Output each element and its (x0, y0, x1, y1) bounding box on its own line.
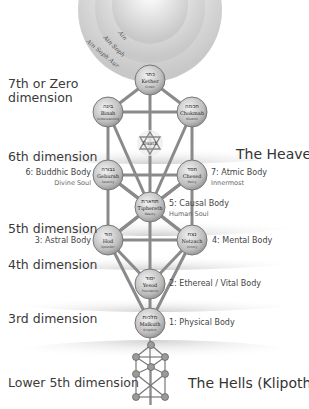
svg-text:תפארת: תפארת (141, 198, 159, 204)
body-label-physical: 1: Physical Body (169, 318, 235, 328)
svg-text:גבורה: גבורה (101, 166, 115, 172)
body-label-causal: 5: Causal Body Human Soul (169, 199, 229, 219)
svg-text:Crown: Crown (145, 85, 155, 89)
svg-text:Chesed: Chesed (183, 173, 203, 179)
body-label-mental: 4: Mental Body (212, 236, 272, 246)
dimension-label-5th: 5th dimension (8, 222, 98, 236)
svg-text:Netzach: Netzach (182, 238, 204, 244)
region-label-heavens: The Heavens (236, 146, 309, 162)
svg-text:Victory: Victory (187, 245, 198, 249)
dimension-label-7th: 7th or Zero dimension (8, 77, 78, 105)
svg-text:חכמה: חכמה (185, 103, 199, 109)
node-netzach: נצח Netzach Victory (177, 225, 207, 255)
body-label-buddhic: 6: Buddhic Body Divine Soul (26, 168, 91, 188)
dimension-label-4th: 4th dimension (8, 258, 98, 272)
node-geburah: גבורה Geburah Severity (93, 160, 123, 190)
node-binah: בינה Binah Understanding (93, 97, 123, 127)
node-chokmah: חכמה Chokmah Wisdom (177, 97, 207, 127)
svg-text:Binah: Binah (101, 110, 116, 116)
svg-text:Malkuth: Malkuth (139, 321, 161, 327)
svg-text:Beauty: Beauty (145, 212, 156, 216)
dimension-label-lower-5th: Lower 5th dimension (8, 376, 139, 390)
svg-text:Kether: Kether (141, 78, 159, 84)
region-label-hells: The Hells (Klipoth) (188, 375, 309, 391)
node-yesod: יסוד Yesod Foundation (135, 269, 165, 299)
node-tiphereth: תפארת Tiphereth Beauty (135, 192, 165, 222)
svg-text:Wisdom: Wisdom (186, 117, 198, 121)
node-malkuth: מלכות Malkuth Kingdom (135, 308, 165, 338)
svg-text:נצח: נצח (187, 231, 196, 237)
svg-text:Understanding: Understanding (97, 117, 119, 121)
svg-text:יסוד: יסוד (145, 275, 154, 281)
svg-text:כתר: כתר (145, 71, 155, 77)
svg-text:Chokmah: Chokmah (180, 110, 205, 116)
node-kether: כתר Kether Crown (135, 65, 165, 95)
tree-of-life-diagram: Ain Ain Soph Ain Soph Aur (0, 0, 309, 409)
dimension-label-6th: 6th dimension (8, 150, 98, 164)
svg-text:Hod: Hod (103, 238, 114, 244)
dimension-label-3rd: 3rd dimension (8, 312, 98, 326)
svg-text:Tiphereth: Tiphereth (138, 205, 164, 212)
svg-text:חסד: חסד (187, 166, 198, 172)
svg-text:Severity: Severity (102, 180, 115, 184)
body-label-astral: 3: Astral Body (35, 236, 91, 246)
node-chesed: חסד Chesed Mercy (177, 160, 207, 190)
svg-text:Foundation: Foundation (142, 289, 159, 293)
svg-text:בינה: בינה (103, 103, 113, 109)
svg-text:Geburah: Geburah (97, 173, 120, 179)
svg-text:Kingdom: Kingdom (143, 328, 156, 332)
svg-text:Splendor: Splendor (101, 245, 115, 249)
daath-star: Daath (137, 130, 163, 156)
svg-text:Daath: Daath (142, 140, 158, 146)
svg-text:Mercy: Mercy (187, 180, 196, 184)
body-label-atmic: 7: Atmic Body Innermost (211, 168, 267, 188)
svg-text:הוד: הוד (104, 231, 113, 237)
body-label-ethereal: 2: Ethereal / Vital Body (169, 279, 261, 289)
svg-text:מלכות: מלכות (143, 314, 158, 320)
svg-text:Yesod: Yesod (142, 282, 158, 288)
